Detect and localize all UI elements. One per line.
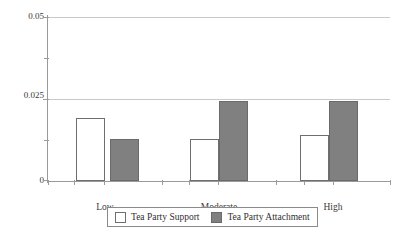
x-axis-line (48, 181, 391, 182)
bar-high-support (300, 135, 329, 181)
legend-entry-attachment[interactable]: Tea Party Attachment (211, 212, 309, 223)
x-tick-0 (48, 180, 49, 185)
bar-high-attachment (329, 101, 358, 181)
y-tick-label-bottom: 0 (4, 176, 44, 185)
legend-swatch-support-icon (115, 212, 126, 223)
x-tick-9 (390, 180, 391, 185)
y-tick-label-middle: 0.025 (4, 91, 44, 100)
y-tick-major-0.05 (43, 17, 49, 18)
gridline-0.05 (48, 17, 390, 18)
bar-low-attachment (110, 139, 139, 181)
x-tick-6 (276, 180, 277, 185)
y-tick-minor-0.0125 (44, 140, 49, 141)
y-tick-label-top: 0.05 (4, 12, 44, 21)
y-tick-major-0.025 (43, 99, 49, 100)
bar-moderate-support (190, 139, 219, 181)
bar-chart-figure: 0.05 0.025 0 Low Mo (0, 0, 404, 240)
plot-area: Low Moderate High (48, 17, 390, 181)
bar-moderate-attachment (219, 101, 248, 181)
gridline-0.025 (48, 99, 390, 100)
legend-entry-support[interactable]: Tea Party Support (115, 212, 199, 223)
legend-label-attachment: Tea Party Attachment (227, 212, 309, 223)
chart-legend: Tea Party Support Tea Party Attachment (107, 207, 318, 227)
legend-swatch-attachment-icon (211, 212, 222, 223)
y-tick-minor-0.0375 (44, 58, 49, 59)
x-tick-3 (162, 180, 163, 185)
bar-low-support (76, 118, 105, 181)
legend-label-support: Tea Party Support (131, 212, 199, 223)
x-tick-1 (74, 180, 75, 185)
x-axis-label-high: High (324, 202, 343, 213)
